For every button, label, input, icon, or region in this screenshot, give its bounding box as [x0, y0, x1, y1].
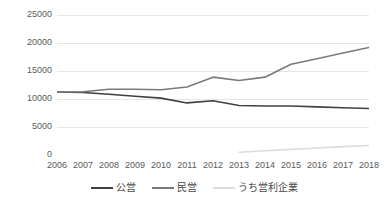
- legend-item[interactable]: 民営: [152, 182, 197, 194]
- y-tick-label: 15000: [0, 66, 52, 75]
- y-tick-label: 0: [0, 150, 52, 159]
- legend-item[interactable]: 公営: [91, 182, 136, 194]
- x-tick-label: 2012: [203, 160, 223, 171]
- x-tick-label: 2015: [281, 160, 301, 171]
- legend-label: 公営: [116, 182, 136, 194]
- x-tick-label: 2007: [73, 160, 93, 171]
- x-tick-label: 2014: [255, 160, 275, 171]
- y-tick-label: 20000: [0, 38, 52, 47]
- x-tick-label: 2018: [359, 160, 379, 171]
- x-tick-label: 2011: [177, 160, 196, 171]
- legend-swatch-icon: [213, 187, 235, 189]
- plot-area: [57, 15, 369, 155]
- series-line: [57, 47, 369, 92]
- chart-legend: 公営民営うち営利企業: [0, 178, 389, 198]
- x-tick-label: 2010: [151, 160, 171, 171]
- legend-label: 民営: [177, 182, 197, 194]
- legend-item[interactable]: うち営利企業: [213, 182, 298, 194]
- legend-swatch-icon: [152, 187, 174, 189]
- y-tick-label: 25000: [0, 10, 52, 19]
- legend-swatch-icon: [91, 187, 113, 189]
- line-chart: 2500020000150001000050000 20062007200820…: [0, 0, 389, 198]
- x-tick-label: 2017: [333, 160, 353, 171]
- x-tick-label: 2009: [125, 160, 145, 171]
- legend-label: うち営利企業: [238, 182, 298, 194]
- y-tick-label: 10000: [0, 94, 52, 103]
- x-tick-label: 2006: [47, 160, 67, 171]
- y-axis: 2500020000150001000050000: [0, 0, 52, 198]
- series-line: [57, 92, 369, 109]
- x-axis: 2006200720082009201020112012201320142015…: [57, 160, 369, 174]
- x-tick-label: 2008: [99, 160, 119, 171]
- plot-svg: [57, 15, 369, 155]
- x-tick-label: 2016: [307, 160, 327, 171]
- series-line: [239, 145, 369, 152]
- y-tick-label: 5000: [0, 122, 52, 131]
- x-tick-label: 2013: [229, 160, 249, 171]
